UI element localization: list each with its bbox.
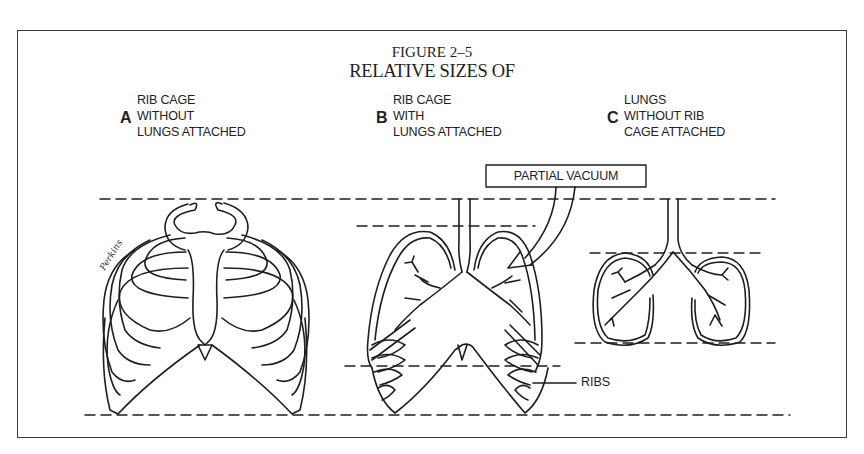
reference-lines <box>85 199 790 415</box>
rib-cage-a <box>103 203 309 414</box>
illustration <box>0 0 864 454</box>
partial-vacuum-label: PARTIAL VACUUM <box>486 165 646 187</box>
lungs-c <box>593 199 749 345</box>
ribs-label: RIBS <box>581 375 610 389</box>
